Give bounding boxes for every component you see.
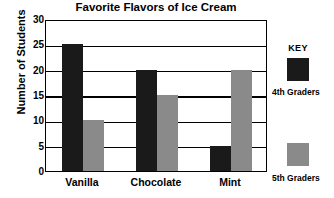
plot-area (45, 20, 267, 172)
y-axis-tick-label: 0 (22, 167, 44, 177)
chart-screenshot: Favorite Flavors of Ice Cream Number of … (0, 0, 334, 198)
x-axis-tick-label: Mint (193, 176, 267, 188)
legend-swatch-5th-graders (287, 143, 309, 166)
y-axis-tick-label: 10 (22, 116, 44, 126)
bar-chocolate-4th-graders (136, 70, 157, 171)
y-axis-tick-label: 15 (22, 91, 44, 101)
page-title: Favorite Flavors of Ice Cream (45, 1, 267, 13)
y-axis-tick-label: 20 (22, 66, 44, 76)
bar-mint-5th-graders (231, 70, 252, 171)
legend: KEY 4th Graders5th Graders (272, 40, 334, 185)
bar-vanilla-4th-graders (62, 44, 83, 171)
x-axis-tick-label: Vanilla (45, 176, 119, 188)
x-axis-tick-label: Chocolate (119, 176, 193, 188)
legend-swatch-4th-graders (287, 58, 309, 81)
bar-mint-4th-graders (210, 146, 231, 171)
legend-title: KEY (272, 43, 324, 53)
bar-vanilla-5th-graders (83, 120, 104, 171)
legend-label-5th-graders: 5th Graders (272, 173, 320, 183)
y-axis-tick-label: 30 (22, 15, 44, 25)
bar-chocolate-5th-graders (157, 95, 178, 171)
y-axis-tick-label: 25 (22, 40, 44, 50)
y-axis-tick-label: 5 (22, 142, 44, 152)
legend-label-4th-graders: 4th Graders (272, 87, 320, 97)
